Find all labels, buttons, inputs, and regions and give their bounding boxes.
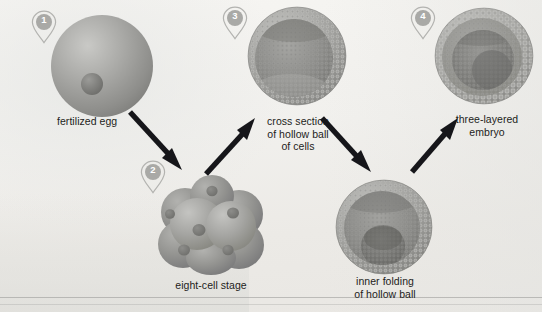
diagram-canvas: 1 fertilized egg	[0, 0, 542, 312]
figure-eight-cell-stage	[155, 178, 267, 276]
arrow-cross-section-to-gastrula	[318, 112, 382, 180]
arrow-eight-cell-to-cross-section	[196, 112, 262, 180]
marker-pin-3: 3	[222, 6, 248, 40]
figure-three-layered-embryo	[432, 4, 536, 108]
marker-number-3: 3	[222, 10, 248, 21]
marker-number-4: 4	[410, 10, 436, 21]
marker-number-1: 1	[31, 14, 57, 25]
figure-blastula-cross-section	[245, 4, 349, 108]
marker-pin-1: 1	[31, 10, 57, 44]
page-rule-bottom	[0, 304, 542, 305]
figure-gastrula	[333, 178, 437, 276]
marker-pin-4: 4	[410, 6, 436, 40]
label-inner-folding-hollow-ball: inner folding of hollow ball	[332, 275, 438, 300]
arrow-egg-to-eight-cell	[126, 108, 194, 178]
page-rule-top	[0, 297, 542, 298]
arrow-gastrula-to-three-layered	[404, 108, 466, 178]
label-eight-cell-stage: eight-cell stage	[155, 279, 267, 292]
figure-fertilized-egg	[48, 12, 156, 118]
